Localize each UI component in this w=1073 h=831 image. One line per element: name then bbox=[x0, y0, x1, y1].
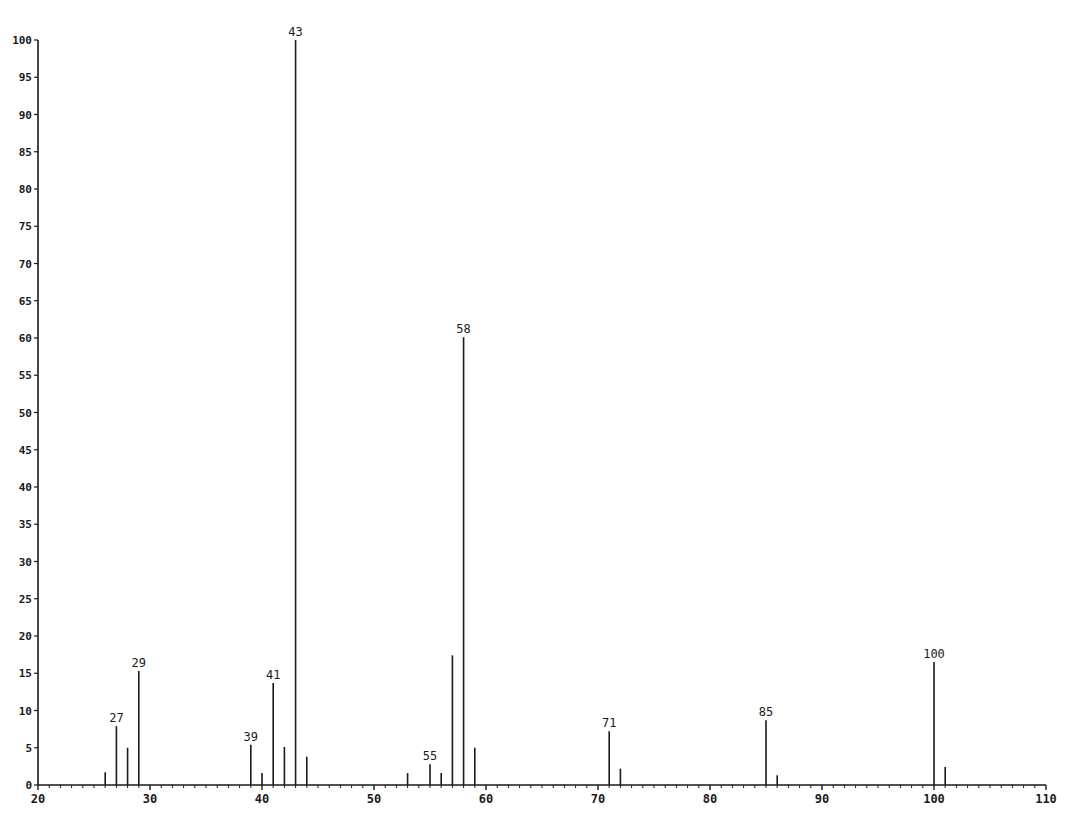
y-tick-label: 5 bbox=[25, 742, 32, 755]
mass-spectrum-chart: 0510152025303540455055606570758085909510… bbox=[0, 0, 1073, 831]
y-tick-label: 60 bbox=[19, 332, 32, 345]
peak-label: 55 bbox=[423, 749, 437, 763]
y-tick-label: 15 bbox=[19, 667, 32, 680]
y-tick-label: 40 bbox=[19, 481, 32, 494]
y-tick-label: 50 bbox=[19, 407, 32, 420]
y-tick-label: 25 bbox=[19, 593, 32, 606]
y-tick-label: 55 bbox=[19, 369, 32, 382]
y-tick-label: 70 bbox=[19, 258, 32, 271]
y-tick-label: 35 bbox=[19, 518, 32, 531]
x-tick-label: 110 bbox=[1035, 792, 1057, 806]
x-tick-label: 60 bbox=[479, 792, 493, 806]
peak-label: 39 bbox=[244, 730, 258, 744]
peak-label: 85 bbox=[759, 705, 773, 719]
y-tick-label: 65 bbox=[19, 295, 32, 308]
peak-label: 41 bbox=[266, 668, 280, 682]
peak-label: 71 bbox=[602, 716, 616, 730]
x-tick-label: 50 bbox=[367, 792, 381, 806]
x-tick-label: 90 bbox=[815, 792, 829, 806]
peak-label: 100 bbox=[923, 647, 945, 661]
x-tick-label: 30 bbox=[143, 792, 157, 806]
peak-series: 272939414355587185100 bbox=[105, 25, 945, 785]
y-tick-label: 80 bbox=[19, 183, 32, 196]
y-tick-label: 90 bbox=[19, 109, 32, 122]
y-axis: 0510152025303540455055606570758085909510… bbox=[12, 34, 38, 792]
peak-label: 43 bbox=[288, 25, 302, 39]
y-tick-label: 45 bbox=[19, 444, 32, 457]
x-tick-label: 70 bbox=[591, 792, 605, 806]
peak-label: 58 bbox=[456, 322, 470, 336]
x-tick-label: 100 bbox=[923, 792, 945, 806]
y-tick-label: 75 bbox=[19, 220, 32, 233]
y-tick-label: 85 bbox=[19, 146, 32, 159]
peak-label: 29 bbox=[132, 656, 146, 670]
y-tick-label: 10 bbox=[19, 705, 32, 718]
y-tick-label: 0 bbox=[25, 779, 32, 792]
x-tick-label: 20 bbox=[31, 792, 45, 806]
y-tick-label: 100 bbox=[12, 34, 32, 47]
x-tick-label: 80 bbox=[703, 792, 717, 806]
x-axis: 2030405060708090100110 bbox=[31, 785, 1057, 806]
y-tick-label: 30 bbox=[19, 556, 32, 569]
peak-label: 27 bbox=[109, 711, 123, 725]
y-tick-label: 20 bbox=[19, 630, 32, 643]
x-tick-label: 40 bbox=[255, 792, 269, 806]
y-tick-label: 95 bbox=[19, 71, 32, 84]
chart-canvas: 0510152025303540455055606570758085909510… bbox=[0, 0, 1073, 831]
